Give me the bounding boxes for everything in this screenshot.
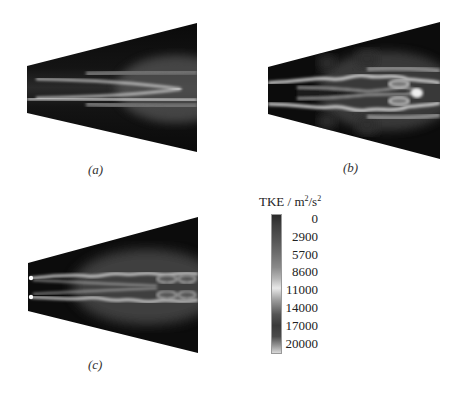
colorbar-title-mid: /s [309,194,318,209]
colorbar-title-text: TKE / m [259,194,305,209]
contour-panel-c [27,216,201,356]
contour-panel-a [26,22,200,154]
colorbar-title-sup2: 2 [317,194,321,203]
colorbar-tick: 5700 [258,247,318,263]
panel-caption-c: (c) [88,357,102,373]
tke-contour-c [27,216,201,356]
colorbar-tick: 0 [258,211,318,227]
colorbar-tick: 8600 [258,264,318,280]
tke-contour-b [267,21,443,161]
colorbar-title: TKE / m2/s2 [259,194,321,210]
panel-caption-b: (b) [343,160,358,176]
colorbar-tick: 11000 [258,282,318,298]
colorbar-tick: 14000 [258,300,318,316]
contour-panel-b [267,21,443,161]
tke-contour-a [26,22,200,154]
colorbar-tick: 20000 [258,336,318,352]
colorbar-tick: 17000 [258,318,318,334]
colorbar-tick: 2900 [258,229,318,245]
panel-caption-a: (a) [88,162,103,178]
